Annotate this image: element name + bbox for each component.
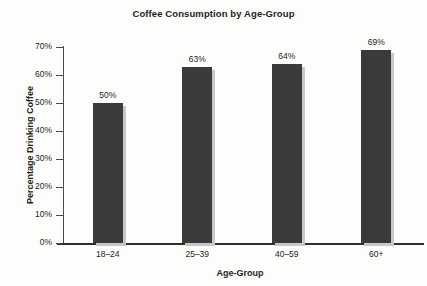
bar-value-label: 69% [352,37,400,47]
bar-rect [361,50,391,243]
bar-rect [182,67,212,243]
x-tick-label: 40–59 [255,249,319,259]
y-tick-mark [56,103,63,104]
y-tick-mark [56,159,63,160]
y-tick-label: 50% [35,97,52,107]
y-tick-label: 10% [35,209,52,219]
y-tick-mark [56,75,63,76]
x-tick-label: 25–39 [165,249,229,259]
bar-value-label: 63% [173,54,221,64]
y-tick-label: 40% [35,125,52,135]
y-tick-label: 70% [35,41,52,51]
y-tick-mark [56,243,63,244]
y-tick-mark [56,215,63,216]
chart-title: Coffee Consumption by Age-Group [0,8,427,19]
bar-value-label: 50% [84,90,132,100]
bar-value-label: 64% [263,51,311,61]
y-tick-label: 60% [35,69,52,79]
y-tick-mark [56,131,63,132]
x-axis-title: Age-Group [60,268,420,278]
bar-rect [272,64,302,243]
bar-40–59[interactable]: 64% [272,64,302,243]
y-tick-label: 20% [35,181,52,191]
y-tick-mark [56,47,63,48]
plot-area: 50%63%64%69% [63,47,421,243]
bar-60+[interactable]: 69% [361,50,391,243]
y-axis-title: Percentage Drinking Coffee [25,45,35,245]
bar-chart: Coffee Consumption by Age-Group Percenta… [0,0,427,286]
bar-25–39[interactable]: 63% [182,67,212,243]
y-tick-label: 30% [35,153,52,163]
bar-rect [93,103,123,243]
y-tick-mark [56,187,63,188]
bar-18–24[interactable]: 50% [93,103,123,243]
x-tick-label: 60+ [344,249,408,259]
x-tick-label: 18–24 [76,249,140,259]
y-tick-label: 0% [40,237,52,247]
